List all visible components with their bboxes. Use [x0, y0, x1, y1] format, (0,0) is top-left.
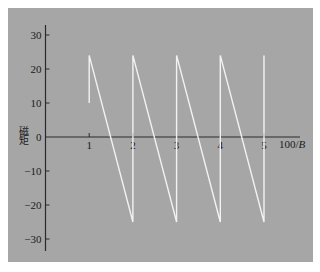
y-tick-label: −10: [24, 165, 42, 177]
y-tick-label: 30: [31, 29, 43, 41]
y-tick-label: 20: [31, 63, 43, 75]
y-tick-label: −20: [24, 199, 42, 211]
sawtooth-line: [89, 55, 264, 222]
y-tick-label: 0: [36, 131, 42, 143]
y-tick-label: −30: [24, 233, 42, 245]
chart-svg: 3020100−10−20−3012345 100/B: [0, 0, 320, 272]
y-axis-title: 磁矩: [16, 126, 28, 144]
y-tick-label: 10: [31, 97, 43, 109]
x-axis-title: 100/B: [279, 138, 306, 150]
axes: [46, 25, 301, 251]
x-tick-label: 1: [86, 139, 92, 151]
